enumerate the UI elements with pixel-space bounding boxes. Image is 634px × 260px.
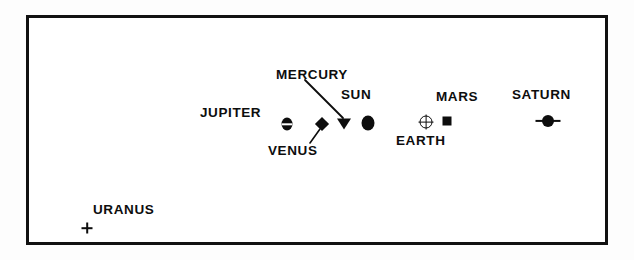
label-uranus: URANUS bbox=[93, 203, 154, 217]
marker-earth-icon bbox=[420, 116, 433, 129]
label-venus: VENUS bbox=[268, 144, 318, 158]
label-earth: EARTH bbox=[396, 134, 446, 148]
marker-uranus-icon bbox=[82, 223, 93, 234]
marker-mars-icon bbox=[443, 117, 452, 126]
label-jupiter: JUPITER bbox=[200, 106, 261, 120]
marker-sun-icon bbox=[362, 116, 375, 131]
marker-jupiter-icon bbox=[282, 118, 293, 131]
label-saturn: SATURN bbox=[512, 88, 571, 102]
marker-saturn-icon bbox=[542, 115, 554, 127]
label-sun: SUN bbox=[341, 88, 371, 102]
marker-mercury-icon bbox=[337, 119, 351, 130]
saturn-disc-icon bbox=[542, 115, 554, 127]
solar-system-diagram: JUPITER VENUS MERCURY SUN EARTH MARS SAT… bbox=[0, 0, 634, 260]
label-mars: MARS bbox=[436, 90, 478, 104]
label-mercury: MERCURY bbox=[276, 68, 348, 82]
